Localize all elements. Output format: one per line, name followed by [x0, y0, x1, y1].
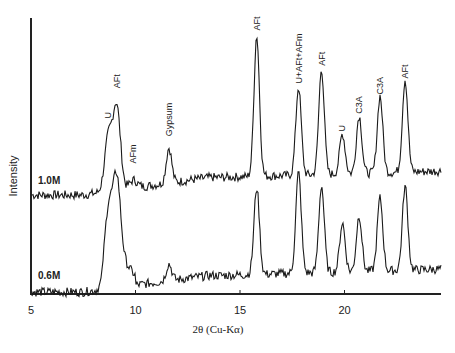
peak-label: C3A: [354, 96, 364, 114]
x-tick-label: 20: [338, 304, 350, 316]
x-axis-label: 2θ (Cu-Kα): [192, 323, 243, 336]
peak-label: Gypsum: [164, 103, 174, 137]
peak-label: U: [337, 125, 347, 132]
peak-label: C3A: [375, 77, 385, 95]
peak-label: AFt: [317, 51, 327, 66]
x-tick-label: 5: [28, 304, 34, 316]
y-axis-label: Intensity: [7, 155, 19, 196]
peak-label: U+AFt+AFm: [294, 33, 304, 83]
xrd-chart: 5101520 Intensity 2θ (Cu-Kα) 1.0M0.6M UA…: [0, 0, 455, 353]
x-tick-label: 15: [234, 304, 246, 316]
peak-label: AFm: [128, 144, 138, 163]
spectrum-line: [32, 171, 441, 297]
series-label: 0.6M: [38, 270, 60, 281]
peak-label: U: [103, 112, 113, 119]
peak-label: AFt: [252, 16, 262, 31]
peak-label: AFt: [112, 74, 122, 89]
peak-label: AFt: [400, 64, 410, 79]
series-label: 1.0M: [38, 175, 60, 186]
spectrum-line: [32, 39, 441, 200]
x-tick-label: 10: [129, 304, 141, 316]
